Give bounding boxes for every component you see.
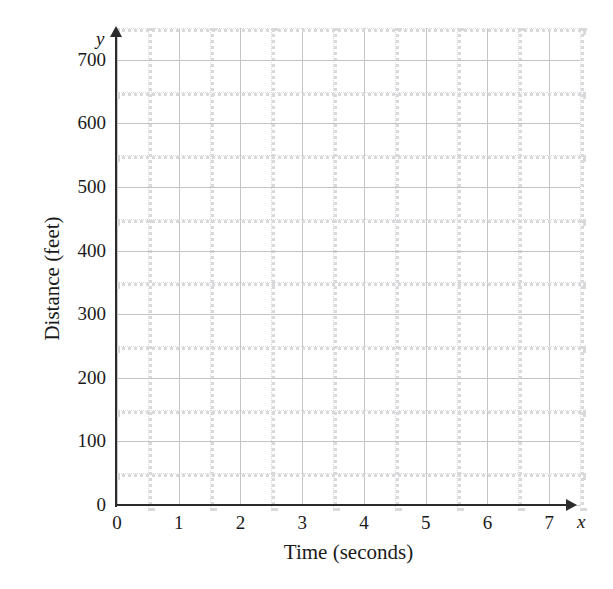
y-axis-line bbox=[115, 34, 117, 507]
gridline-horizontal bbox=[117, 251, 580, 252]
x-tick-label-text: 6 bbox=[467, 512, 507, 534]
x-tick-label: 7 bbox=[529, 512, 569, 534]
x-axis-arrow-icon bbox=[566, 499, 577, 511]
y-tick-label-text: 400 bbox=[78, 241, 107, 260]
x-axis-title: Time (seconds) bbox=[117, 540, 580, 565]
gridline-horizontal bbox=[117, 219, 586, 223]
coordinate-grid-chart: y x 0100200300400500600700 01234567 Time… bbox=[0, 0, 613, 589]
gridline-horizontal bbox=[117, 92, 586, 96]
x-tick-label-text: 1 bbox=[159, 512, 199, 534]
gridline-vertical bbox=[179, 28, 180, 505]
gridline-horizontal bbox=[117, 282, 586, 286]
plot-area bbox=[117, 28, 580, 505]
gridline-horizontal bbox=[117, 441, 580, 442]
x-axis-symbol: x bbox=[577, 512, 585, 531]
x-tick-label-text: 0 bbox=[97, 512, 137, 534]
gridline-vertical bbox=[549, 28, 550, 505]
y-tick-label-text: 500 bbox=[78, 177, 107, 196]
gridline-vertical bbox=[395, 28, 399, 511]
x-axis-line bbox=[116, 504, 572, 506]
y-axis-arrow-icon bbox=[110, 26, 122, 37]
gridline-horizontal bbox=[117, 410, 586, 414]
x-tick-label: 3 bbox=[282, 512, 322, 534]
x-tick-label-text: 2 bbox=[220, 512, 260, 534]
x-tick-label: 2 bbox=[220, 512, 260, 534]
x-tick-label: 6 bbox=[467, 512, 507, 534]
gridline-vertical bbox=[487, 28, 488, 505]
gridline-vertical bbox=[117, 28, 118, 505]
y-axis-title: Distance (feet) bbox=[40, 40, 65, 517]
x-tick-label-text: 7 bbox=[529, 512, 569, 534]
x-tick-label: 0 bbox=[97, 512, 137, 534]
gridline-vertical bbox=[210, 28, 214, 511]
gridline-vertical bbox=[364, 28, 365, 505]
gridline-horizontal bbox=[117, 60, 580, 61]
y-tick-label-text: 600 bbox=[78, 113, 107, 132]
gridline-vertical bbox=[333, 28, 337, 511]
gridline-horizontal bbox=[117, 346, 586, 350]
gridline-vertical bbox=[240, 28, 241, 505]
x-tick-label-text: 3 bbox=[282, 512, 322, 534]
gridline-vertical bbox=[302, 28, 303, 505]
gridline-vertical bbox=[148, 28, 152, 511]
gridline-vertical bbox=[457, 28, 461, 511]
x-tick-label-text: 4 bbox=[344, 512, 384, 534]
y-axis-symbol: y bbox=[96, 29, 104, 48]
y-tick-label-text: 200 bbox=[78, 368, 107, 387]
gridline-vertical bbox=[271, 28, 275, 511]
y-tick-label-text: 100 bbox=[78, 431, 107, 450]
y-tick-label-text: 700 bbox=[78, 50, 107, 69]
gridline-horizontal bbox=[117, 28, 586, 32]
gridline-horizontal bbox=[117, 187, 580, 188]
x-tick-label: 1 bbox=[159, 512, 199, 534]
gridline-horizontal bbox=[117, 378, 580, 379]
gridline-horizontal bbox=[117, 314, 580, 315]
gridline-horizontal bbox=[117, 123, 580, 124]
x-tick-label-text: 5 bbox=[406, 512, 446, 534]
x-tick-label: 4 bbox=[344, 512, 384, 534]
gridline-horizontal bbox=[117, 155, 586, 159]
x-tick-label: 5 bbox=[406, 512, 446, 534]
gridline-vertical bbox=[426, 28, 427, 505]
y-tick-label-text: 300 bbox=[78, 304, 107, 323]
gridline-vertical bbox=[580, 28, 584, 511]
gridline-horizontal bbox=[117, 473, 586, 477]
gridline-vertical bbox=[518, 28, 522, 511]
